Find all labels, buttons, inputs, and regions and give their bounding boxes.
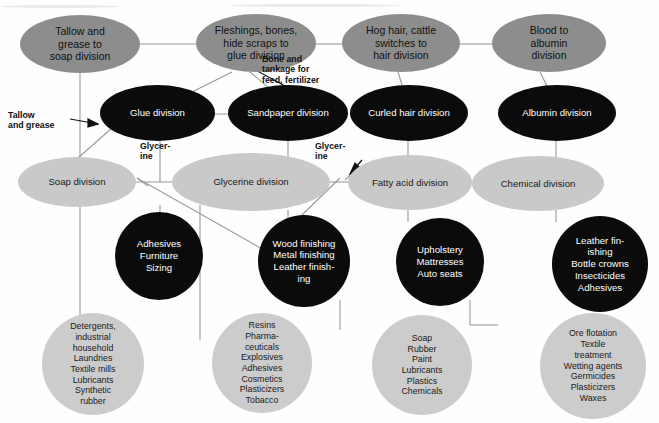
- node-label: Curled hair division: [368, 107, 450, 119]
- edge-label-bone-and-tankage: Bone and tankage for feed, fertilizer: [262, 54, 352, 85]
- diagram-canvas: Tallow and grease to soap division Flesh…: [0, 0, 659, 423]
- node-label: Sandpaper division: [247, 107, 329, 119]
- node-label: Leather fin- ishing Bottle crowns Insect…: [571, 235, 629, 294]
- node-adhesives-group[interactable]: Adhesives Furniture Sizing: [115, 212, 203, 300]
- node-soap-rubber-group[interactable]: Soap Rubber Paint Lubricants Plastics Ch…: [372, 315, 472, 415]
- node-glue-division[interactable]: Glue division: [100, 85, 215, 141]
- node-label: Glycerine division: [213, 176, 288, 188]
- scan-artifact: [0, 5, 120, 8]
- node-label: Fatty acid division: [372, 177, 448, 189]
- node-resins-group[interactable]: Resins Pharma- ceuticals Explosives Adhe…: [212, 313, 312, 413]
- node-leather-finishing-group[interactable]: Leather fin- ishing Bottle crowns Insect…: [552, 216, 648, 312]
- node-glycerine-division[interactable]: Glycerine division: [172, 153, 330, 211]
- node-label: Albumin division: [522, 107, 591, 119]
- node-albumin-division[interactable]: Albumin division: [498, 85, 616, 141]
- node-label: Hog hair, cattle switches to hair divisi…: [366, 24, 436, 62]
- node-fatty-acid-division[interactable]: Fatty acid division: [348, 155, 472, 210]
- node-label: Upholstery Mattresses Auto seats: [417, 244, 464, 279]
- node-label: Tallow and grease to soap division: [50, 25, 111, 63]
- node-upholstery-group[interactable]: Upholstery Mattresses Auto seats: [396, 218, 484, 306]
- node-label: Soap Rubber Paint Lubricants Plastics Ch…: [401, 333, 442, 397]
- node-curled-hair-division[interactable]: Curled hair division: [350, 85, 468, 141]
- node-chemical-division[interactable]: Chemical division: [472, 156, 604, 211]
- node-label: Resins Pharma- ceuticals Explosives Adhe…: [240, 320, 284, 406]
- node-soap-division[interactable]: Soap division: [18, 157, 136, 207]
- node-hog-hair-cattle[interactable]: Hog hair, cattle switches to hair divisi…: [342, 14, 460, 72]
- node-label: Wood finishing Metal finishing Leather f…: [273, 238, 336, 285]
- edge-label-tallow-and-grease: Tallow and grease: [8, 110, 78, 131]
- node-detergents-group[interactable]: Detergents, industrial household Laundri…: [42, 313, 144, 415]
- node-label: Ore flotation Textile treatment Wetting …: [564, 328, 623, 403]
- edge-label-glycerine-left: Glycer- ine: [140, 141, 190, 162]
- node-label: Glue division: [130, 107, 185, 119]
- node-ore-flotation-group[interactable]: Ore flotation Textile treatment Wetting …: [540, 313, 646, 419]
- scan-artifact: [230, 4, 400, 7]
- node-blood-albumin[interactable]: Blood to albumin division: [492, 14, 606, 72]
- node-sandpaper-division[interactable]: Sandpaper division: [228, 85, 348, 141]
- node-label: Soap division: [48, 176, 105, 188]
- node-label: Detergents, industrial household Laundri…: [70, 321, 115, 407]
- node-label: Chemical division: [501, 178, 576, 190]
- node-label: Blood to albumin division: [530, 24, 569, 62]
- node-wood-finishing-group[interactable]: Wood finishing Metal finishing Leather f…: [258, 215, 350, 307]
- edge-label-glycerine-right: Glycer- ine: [315, 141, 365, 162]
- node-label: Adhesives Furniture Sizing: [137, 238, 181, 273]
- node-tallow-grease-soap[interactable]: Tallow and grease to soap division: [20, 15, 140, 73]
